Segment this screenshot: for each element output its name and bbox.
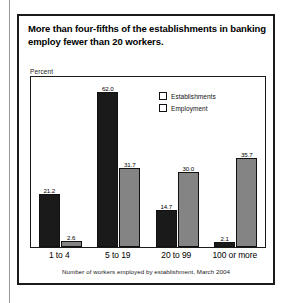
y-axis-label: Percent	[30, 68, 53, 75]
chart-title: More than four-fifths of the establishme…	[28, 23, 266, 48]
bar-group: 62.031.7	[97, 77, 140, 247]
plot-area: 21.22.662.031.714.730.02.135.7	[31, 77, 265, 247]
bar-value-label: 2.6	[67, 234, 75, 241]
bar-value-label: 62.0	[102, 85, 114, 92]
bar-group: 2.135.7	[214, 77, 257, 247]
page-margin-rule	[9, 0, 10, 303]
bar-group: 14.730.0	[156, 77, 199, 247]
plot-frame: Establishments Employment 21.22.662.031.…	[30, 76, 266, 248]
x-axis-tick-label: 1 to 4	[30, 250, 89, 260]
bar-establishments[interactable]: 62.0	[97, 92, 118, 247]
bar-group: 21.22.6	[39, 77, 82, 247]
bar-employment[interactable]: 31.7	[119, 168, 140, 247]
x-axis-tick-label: 20 to 99	[147, 250, 206, 260]
bar-value-label: 21.2	[43, 187, 55, 194]
figure-container: More than four-fifths of the establishme…	[17, 14, 275, 285]
bar-employment[interactable]: 30.0	[178, 172, 199, 247]
bar-value-label: 30.0	[182, 165, 194, 172]
x-axis-labels: 1 to 45 to 1920 to 99100 or more	[30, 250, 266, 264]
bar-employment[interactable]: 35.7	[236, 158, 257, 247]
bar-value-label: 31.7	[124, 161, 136, 168]
x-axis-tick-label: 5 to 19	[89, 250, 148, 260]
x-axis-tick-label: 100 or more	[206, 250, 265, 260]
bar-value-label: 14.7	[160, 203, 172, 210]
bar-employment[interactable]: 2.6	[61, 241, 82, 248]
bar-value-label: 35.7	[241, 151, 253, 158]
bar-establishments[interactable]: 2.1	[214, 242, 235, 247]
bar-value-label: 2.1	[221, 235, 229, 242]
bar-establishments[interactable]: 21.2	[39, 194, 60, 247]
bar-establishments[interactable]: 14.7	[156, 210, 177, 247]
chart-footnote: Number of workers employed by establishm…	[19, 268, 273, 275]
